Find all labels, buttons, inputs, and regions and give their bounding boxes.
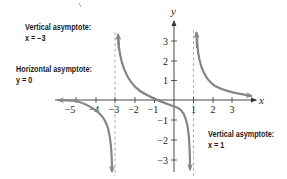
annotation-equation: y = 0 (16, 75, 92, 86)
y-tick-label: 1 (163, 75, 168, 86)
y-axis-label: y (170, 5, 176, 17)
annotation-vertical-asymptote-right: Vertical asymptote: x = 1 (208, 129, 274, 151)
curve-branch-middle-top (118, 34, 119, 50)
annotation-horizontal-asymptote: Horizontal asymptote: y = 0 (16, 64, 92, 86)
annotation-vertical-asymptote-left: Vertical asymptote: x = −3 (25, 22, 91, 44)
x-tick-label: −2 (128, 104, 139, 115)
annotation-title: Horizontal asymptote: (16, 64, 92, 75)
y-tick-label: −3 (157, 155, 168, 166)
x-tick-label: 1 (191, 104, 196, 115)
y-tick-label: 3 (163, 36, 168, 47)
curve-branch-right (197, 34, 252, 96)
x-tick-label: −3 (109, 104, 120, 115)
y-tick-label: 2 (163, 56, 168, 67)
x-tick-label: −5 (65, 104, 76, 115)
stray-mark (79, 3, 81, 7)
annotation-title: Vertical asymptote: (25, 22, 91, 33)
y-tick-label: −1 (157, 115, 168, 126)
curve-branch-middle (118, 36, 190, 170)
x-axis-label: x (258, 94, 264, 106)
annotation-title: Vertical asymptote: (208, 129, 274, 140)
x-tick-label: 3 (230, 104, 235, 115)
x-tick-label: −1 (148, 104, 159, 115)
annotation-equation: x = 1 (208, 140, 274, 151)
annotation-equation: x = −3 (25, 33, 91, 44)
curve-branch-left-tail (58, 100, 76, 101)
y-tick-label: −2 (157, 135, 168, 146)
curve-branch-right-top (197, 32, 198, 48)
x-tick-label: 2 (211, 104, 216, 115)
